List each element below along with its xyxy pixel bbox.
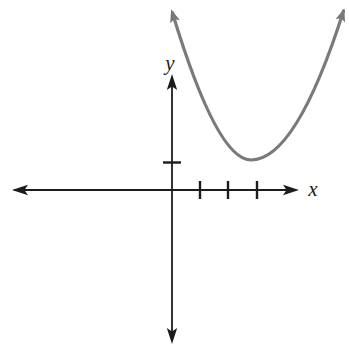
parabola-curve: [173, 11, 344, 160]
x-axis-label: x: [307, 177, 318, 201]
figure: y x: [0, 0, 349, 345]
y-axis-label: y: [163, 51, 175, 75]
parabola-graph: y x: [0, 0, 349, 345]
